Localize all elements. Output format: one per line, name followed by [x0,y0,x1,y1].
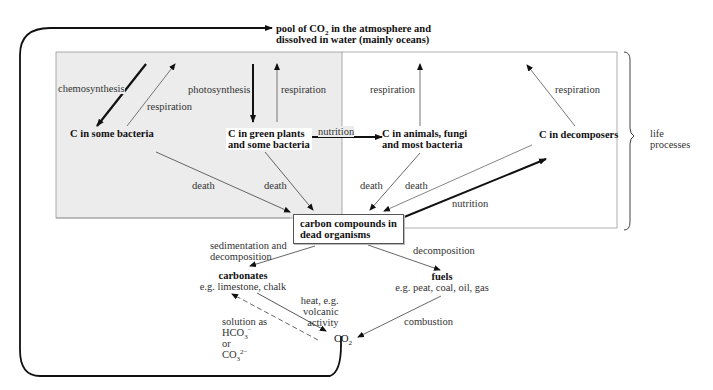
life-line2: processes [650,139,690,150]
label-death-plants: death [264,180,287,191]
dead-line1: carbon compounds in [300,218,397,229]
node-fuels: fuels e.g. peat, coal, oil, gas [390,271,494,293]
life-processes-bracket [624,52,634,230]
hco3-sub: 3 [244,333,248,341]
co2-sub: 2 [349,339,353,347]
label-chemosynthesis: chemosynthesis [58,83,125,94]
label-death-decomposers: death [405,180,428,191]
label-decomposition: decomposition [413,245,475,256]
solution-or: or [222,338,231,349]
life-line1: life [650,128,664,139]
label-nutrition-dead-decomposers: nutrition [452,198,488,209]
label-respiration-decomposers: respiration [555,84,600,95]
node-carbonates: carbonates e.g. limestone, chalk [198,270,288,292]
pool-text-line2: dissolved in water (mainly oceans) [276,34,429,45]
plants-line2: and some bacteria [228,139,310,150]
label-death-bacteria: death [192,180,215,191]
animals-line1: C in animals, fungi [382,128,467,139]
label-respiration-plants: respiration [281,84,326,95]
heat-line1: heat, e.g. [301,295,339,306]
label-heat-volcanic: heat, e.g. volcanic activity [294,295,339,328]
label-solution: solution as HCO3− or CO32− [222,316,267,360]
label-photosynthesis: photosynthesis [188,84,250,95]
co2-text: CO [334,333,349,344]
label-combustion: combustion [404,316,453,327]
co3-sup: 2− [240,348,247,356]
label-respiration-animals: respiration [370,84,415,95]
node-co2: CO2 [334,333,352,344]
node-c-some-bacteria: C in some bacteria [70,128,154,139]
carbonates-example: e.g. limestone, chalk [200,281,287,292]
carbon-cycle-diagram [0,0,713,390]
pool-text-b: in the atmosphere and [329,23,431,34]
carbonates-title: carbonates [219,270,268,281]
node-co2-pool: pool of CO2 in the atmosphere and dissol… [276,23,431,45]
node-c-decomposers: C in decomposers [539,129,618,140]
node-c-animals: C in animals, fungi and most bacteria [382,128,467,150]
fuels-example: e.g. peat, coal, oil, gas [395,282,489,293]
node-c-green-plants: C in green plants and some bacteria [226,128,312,150]
animals-line2: and most bacteria [382,139,463,150]
solution-line1: solution as [222,316,267,327]
plants-line1: C in green plants [228,128,305,139]
hco3-sup: − [248,326,252,334]
node-dead-organisms: carbon compounds in dead organisms [293,214,404,244]
co3-sub: 3 [237,355,241,363]
label-nutrition-plants-animals: nutrition [318,126,354,137]
label-death-animals: death [360,180,383,191]
label-life-processes: life processes [650,128,690,150]
sedimentation-line1: sedimentation and [210,240,287,251]
solution-co3: CO [222,349,237,360]
solution-hco3: HCO [222,327,244,338]
heat-line2: volcanic [303,306,339,317]
label-respiration-bacteria: respiration [147,101,192,112]
sedimentation-line2: decomposition [210,251,272,262]
heat-line3: activity [307,317,339,328]
label-sedimentation: sedimentation and decomposition [210,240,287,262]
fuels-title: fuels [432,271,453,282]
pool-text-a: pool of CO [276,23,325,34]
dead-line2: dead organisms [300,229,370,240]
